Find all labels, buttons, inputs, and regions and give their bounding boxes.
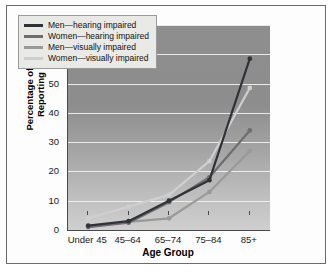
legend-swatch-icon bbox=[24, 46, 43, 49]
legend-item: Women—hearing impaired bbox=[24, 31, 149, 42]
x-axis-tick-mark bbox=[208, 211, 209, 215]
series-marker bbox=[167, 192, 172, 197]
legend-item-label: Men—hearing impaired bbox=[48, 20, 136, 31]
chart-legend: Men—hearing impairedWomen—hearing impair… bbox=[18, 15, 157, 69]
y-axis-tick-label: 20 bbox=[29, 167, 59, 177]
series-marker bbox=[86, 216, 91, 221]
series-marker bbox=[247, 86, 252, 91]
x-axis-tick-label: 85+ bbox=[241, 234, 257, 245]
y-axis-tick-label: 0 bbox=[29, 225, 59, 235]
series-marker bbox=[247, 56, 252, 61]
series-line bbox=[88, 151, 250, 227]
y-axis-tick-label: 30 bbox=[29, 137, 59, 147]
legend-item-label: Women—visually impaired bbox=[48, 53, 148, 64]
x-axis-title: Age Group bbox=[67, 247, 269, 258]
chart-figure-frame: Percentage of Individuals Reporting Diff… bbox=[6, 5, 326, 264]
series-marker bbox=[86, 223, 91, 228]
series-marker bbox=[126, 219, 131, 224]
x-axis-tick-label: 75–84 bbox=[195, 234, 221, 245]
y-axis-tick-label: 50 bbox=[29, 79, 59, 89]
x-axis-tick-label: 45–64 bbox=[114, 234, 140, 245]
legend-item-label: Women—hearing impaired bbox=[48, 31, 149, 42]
x-axis-tick-mark bbox=[87, 211, 88, 215]
x-axis-tick-label: Under 45 bbox=[68, 234, 107, 245]
series-line bbox=[88, 130, 250, 227]
series-marker bbox=[207, 178, 212, 183]
series-marker bbox=[207, 159, 212, 164]
legend-item: Men—hearing impaired bbox=[24, 20, 149, 31]
y-axis-tick-label: 10 bbox=[29, 196, 59, 206]
legend-swatch-icon bbox=[24, 57, 43, 60]
x-axis-tick-mark bbox=[249, 211, 250, 215]
legend-swatch-icon bbox=[24, 35, 43, 38]
series-marker bbox=[126, 204, 131, 209]
legend-item-label: Men—visually impaired bbox=[48, 42, 136, 53]
series-marker bbox=[247, 128, 252, 133]
legend-item: Women—visually impaired bbox=[24, 53, 149, 64]
y-axis-tick-label: 40 bbox=[29, 108, 59, 118]
series-marker bbox=[247, 149, 252, 154]
series-marker bbox=[167, 198, 172, 203]
series-marker bbox=[167, 216, 172, 221]
x-axis-tick-label: 65–74 bbox=[155, 234, 181, 245]
legend-item: Men—visually impaired bbox=[24, 42, 149, 53]
series-marker bbox=[207, 190, 212, 195]
x-axis-tick-mark bbox=[128, 211, 129, 215]
legend-swatch-icon bbox=[24, 24, 43, 27]
x-axis-tick-mark bbox=[168, 211, 169, 215]
